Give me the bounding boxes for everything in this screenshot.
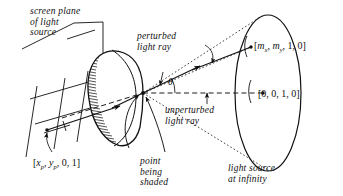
shaded-object <box>85 50 143 147</box>
screen-plane-grid <box>26 71 97 157</box>
unperturbed-direction-vector: [0, 0, 1, 0] <box>258 88 300 99</box>
theta-label: θ <box>168 76 173 87</box>
perturbed-ray-label: perturbed light ray <box>137 31 176 52</box>
perturbed-light-ray <box>47 47 251 130</box>
screen-point-vector: [xp, yp, 0, 1] <box>33 157 80 172</box>
unperturbed-ray-label: unperturbed light ray <box>165 105 214 126</box>
perturbed-ray-leader <box>205 45 213 63</box>
shading-point-marker <box>141 91 145 95</box>
light-source-at-infinity-label: light source at infinity <box>228 163 275 184</box>
screen-point-leader <box>47 133 52 152</box>
point-being-shaded-label: point being shaded <box>140 156 168 188</box>
light-source-diagram: screen plane of light source perturbed l… <box>0 0 343 196</box>
perturbed-direction-vector: [mx, my, 1, 0] <box>254 40 306 55</box>
screen-plane-label: screen plane of light source <box>30 6 80 38</box>
